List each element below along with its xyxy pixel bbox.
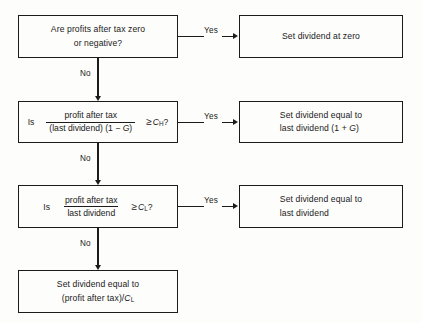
edge-label-no-3: No (80, 239, 91, 248)
connector-yes2-line-right (222, 122, 233, 123)
fraction-ratio-low: profit after tax last dividend (62, 195, 121, 218)
connector-yes2-arrowhead (233, 119, 238, 125)
fraction-ratio-high-denominator-pre: (last dividend) (1 − (49, 123, 122, 133)
connector-no3-arrowhead (95, 265, 101, 270)
decision-node-ratio-low-expression: Is profit after tax last dividend ≥CL? (43, 195, 152, 218)
connector-no2-arrowhead (95, 180, 101, 185)
action-node-grow-dividend: Set dividend equal to last dividend (1 +… (239, 101, 403, 143)
action-node-scaled-dividend-line2-sub: L (131, 296, 135, 303)
action-node-maintain-dividend: Set dividend equal to last dividend (239, 185, 403, 228)
action-node-scaled-dividend-line2: (profit after tax)/CL (57, 292, 139, 305)
fraction-ratio-high: profit after tax (last dividend) (1 − G) (46, 110, 135, 133)
action-node-grow-dividend-line2: last dividend (1 + G) (280, 122, 362, 135)
connector-no2-line (97, 143, 98, 180)
action-node-grow-dividend-line2-pre: last dividend (1 + (280, 123, 350, 133)
connector-yes1-line-left (178, 36, 204, 37)
fraction-ratio-high-denominator-post: ) (129, 123, 132, 133)
action-node-scaled-dividend-line2-pre: (profit after tax)/ (62, 293, 125, 303)
edge-label-no-1: No (80, 69, 91, 78)
action-node-grow-dividend-text: Set dividend equal to last dividend (1 +… (280, 109, 362, 136)
action-node-scaled-dividend-line1: Set dividend equal to (57, 278, 139, 291)
connector-no1-line (97, 58, 98, 96)
connector-no1-arrowhead (95, 96, 101, 101)
decision-node-ratio-high-question-mark: ? (164, 117, 169, 127)
decision-node-profits-zero-or-negative: Are profits after tax zero or negative? (18, 15, 178, 58)
action-node-maintain-dividend-line1: Set dividend equal to (280, 193, 362, 206)
decision-node-ratio-low-lead: Is (43, 202, 50, 212)
fraction-ratio-high-numerator: profit after tax (62, 110, 121, 121)
connector-yes1-arrowhead (233, 33, 238, 39)
decision-node-ratio-low: Is profit after tax last dividend ≥CL? (18, 185, 178, 228)
decision-node-ratio-high: Is profit after tax (last dividend) (1 −… (18, 101, 178, 143)
connector-yes3-line-left (178, 206, 204, 207)
action-node-set-dividend-zero-text: Set dividend at zero (282, 30, 360, 43)
decision-node-ratio-high-expression: Is profit after tax (last dividend) (1 −… (28, 110, 169, 133)
action-node-set-dividend-zero-line1: Set dividend at zero (282, 30, 360, 43)
connector-no3-line (97, 228, 98, 265)
edge-label-no-2: No (80, 154, 91, 163)
connector-yes2-line-left (178, 122, 204, 123)
action-node-set-dividend-zero: Set dividend at zero (239, 15, 403, 58)
connector-yes3-arrowhead (233, 203, 238, 209)
fraction-ratio-low-numerator: profit after tax (62, 195, 121, 206)
fraction-ratio-high-denominator: (last dividend) (1 − G) (46, 122, 135, 134)
decision-node-profits-line2: or negative? (51, 37, 145, 50)
operator-gte-1: ≥ (146, 116, 152, 127)
action-node-maintain-dividend-line2: last dividend (280, 207, 362, 220)
decision-node-profits-text: Are profits after tax zero or negative? (51, 23, 145, 50)
edge-label-yes-1: Yes (204, 26, 218, 35)
decision-node-profits-line1: Are profits after tax zero (51, 23, 145, 36)
action-node-maintain-dividend-text: Set dividend equal to last dividend (280, 193, 362, 220)
decision-node-ratio-low-comparison: ≥CL? (132, 201, 153, 212)
action-node-grow-dividend-line2-post: ) (356, 123, 359, 133)
connector-yes1-line-right (222, 36, 233, 37)
action-node-scaled-dividend: Set dividend equal to (profit after tax)… (18, 270, 178, 313)
flowchart-canvas: Are profits after tax zero or negative? … (0, 0, 422, 323)
decision-node-ratio-high-lead: Is (28, 117, 35, 127)
edge-label-yes-2: Yes (204, 112, 218, 121)
edge-label-yes-3: Yes (204, 196, 218, 205)
decision-node-ratio-low-question-mark: ? (148, 202, 153, 212)
operator-gte-2: ≥ (132, 201, 138, 212)
decision-node-ratio-high-comparison: ≥CH? (146, 116, 168, 127)
action-node-scaled-dividend-text: Set dividend equal to (profit after tax)… (57, 278, 139, 305)
connector-yes3-line-right (222, 206, 233, 207)
action-node-grow-dividend-line1: Set dividend equal to (280, 109, 362, 122)
fraction-ratio-low-denominator: last dividend (64, 206, 118, 218)
